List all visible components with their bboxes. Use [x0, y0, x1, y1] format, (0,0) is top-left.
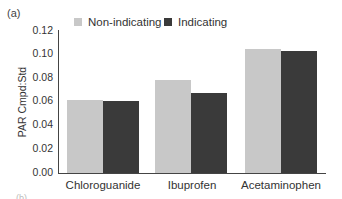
y-tick: 0.04: [13, 119, 53, 130]
x-category-label: Acetaminophen: [226, 179, 336, 191]
y-tick: 0.00: [13, 167, 53, 178]
bar-non-indicating-acetaminophen: [245, 49, 281, 173]
legend: Non-indicating Indicating: [74, 16, 274, 30]
bar-indicating-chloroguanide: [103, 101, 139, 173]
y-tick: 0.12: [13, 25, 53, 36]
legend-label-indicating: Indicating: [178, 16, 227, 28]
plot-area: [59, 31, 326, 173]
y-tick: 0.08: [13, 72, 53, 83]
bar-indicating-ibuprofen: [191, 93, 227, 173]
bar-indicating-acetaminophen: [281, 51, 317, 173]
panel-label: (a): [7, 7, 20, 19]
legend-label-non-indicating: Non-indicating: [88, 16, 162, 28]
bar-non-indicating-chloroguanide: [67, 100, 103, 173]
y-tick: 0.02: [13, 143, 53, 154]
legend-swatch-non-indicating: [74, 18, 82, 26]
bar-non-indicating-ibuprofen: [155, 80, 191, 173]
y-tick: 0.10: [13, 48, 53, 59]
next-panel-label: (b): [16, 193, 27, 199]
y-tick: 0.06: [13, 95, 53, 106]
legend-swatch-indicating: [164, 18, 172, 26]
x-axis-line: [58, 173, 326, 174]
